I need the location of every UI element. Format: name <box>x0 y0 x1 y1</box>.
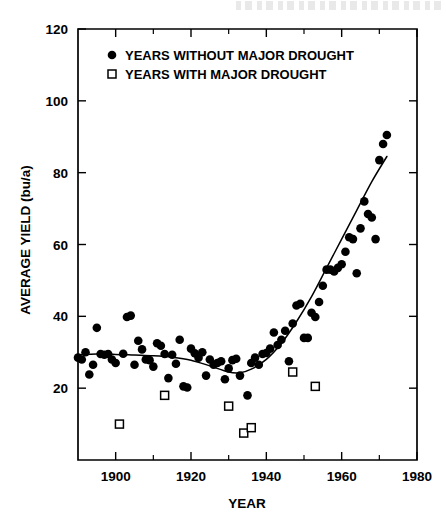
data-point-no-drought <box>288 319 297 328</box>
data-point-no-drought <box>221 375 230 384</box>
data-point-no-drought <box>130 361 139 370</box>
data-point-no-drought <box>175 335 184 344</box>
data-point-no-drought <box>81 348 90 357</box>
data-point-no-drought <box>168 350 177 359</box>
y-axis-ticks <box>78 29 417 388</box>
series-years-without-major-drought <box>74 131 391 400</box>
legend-label: YEARS WITH MAJOR DROUGHT <box>125 67 327 82</box>
y-tick-label: 20 <box>53 381 68 396</box>
data-point-no-drought <box>337 260 346 269</box>
data-point-no-drought <box>138 345 147 354</box>
legend-label: YEARS WITHOUT MAJOR DROUGHT <box>125 48 354 63</box>
data-point-no-drought <box>341 247 350 256</box>
data-point-no-drought <box>198 348 207 357</box>
data-point-no-drought <box>311 313 320 322</box>
data-point-drought <box>225 402 233 410</box>
y-tick-label: 40 <box>53 309 68 324</box>
data-point-no-drought <box>281 326 290 335</box>
scatter-chart: 19001920194019601980 20406080100120 YEAR… <box>0 0 446 529</box>
data-point-no-drought <box>379 140 388 149</box>
data-point-no-drought <box>303 334 312 343</box>
y-tick-label: 100 <box>45 94 68 109</box>
data-point-no-drought <box>217 357 226 366</box>
data-point-no-drought <box>371 235 380 244</box>
data-point-no-drought <box>149 362 158 371</box>
data-point-no-drought <box>236 371 245 380</box>
legend-marker-no-drought <box>108 51 117 60</box>
data-point-drought <box>311 382 319 390</box>
figure-container: 19001920194019601980 20406080100120 YEAR… <box>0 0 446 529</box>
data-point-no-drought <box>296 299 305 308</box>
x-tick-label: 1960 <box>327 469 357 484</box>
data-point-no-drought <box>164 374 173 383</box>
data-point-no-drought <box>172 359 181 368</box>
x-tick-label: 1980 <box>402 469 432 484</box>
chart-legend: YEARS WITHOUT MAJOR DROUGHTYEARS WITH MA… <box>108 48 354 82</box>
data-point-no-drought <box>183 383 192 392</box>
y-tick-label: 120 <box>45 22 68 37</box>
x-axis-title: YEAR <box>228 496 266 511</box>
data-point-drought <box>161 391 169 399</box>
x-axis-tick-labels: 19001920194019601980 <box>101 469 432 484</box>
data-point-no-drought <box>85 370 94 379</box>
x-tick-label: 1940 <box>251 469 281 484</box>
data-point-no-drought <box>270 328 279 337</box>
y-tick-label: 80 <box>53 166 68 181</box>
data-point-no-drought <box>93 324 102 333</box>
data-point-drought <box>289 368 297 376</box>
y-tick-label: 60 <box>53 238 68 253</box>
data-point-no-drought <box>315 298 324 307</box>
legend-marker-drought <box>108 70 116 78</box>
data-point-no-drought <box>319 282 328 291</box>
data-point-no-drought <box>277 335 286 344</box>
x-tick-label: 1900 <box>101 469 131 484</box>
y-axis-title: AVERAGE YIELD (bu/a) <box>18 165 33 315</box>
data-point-no-drought <box>352 269 361 278</box>
y-axis-tick-labels: 20406080100120 <box>45 22 68 396</box>
data-point-no-drought <box>349 235 358 244</box>
data-point-no-drought <box>89 361 98 370</box>
x-tick-label: 1920 <box>176 469 206 484</box>
series-years-with-major-drought <box>115 368 319 437</box>
data-point-no-drought <box>160 350 169 359</box>
data-point-no-drought <box>232 354 241 363</box>
data-point-no-drought <box>224 364 233 373</box>
data-point-no-drought <box>375 156 384 165</box>
data-point-no-drought <box>266 344 275 353</box>
data-point-no-drought <box>285 357 294 366</box>
data-point-no-drought <box>360 197 369 206</box>
data-point-no-drought <box>243 391 252 400</box>
data-point-no-drought <box>383 131 392 140</box>
data-point-no-drought <box>119 349 128 358</box>
data-point-no-drought <box>157 341 166 350</box>
data-point-no-drought <box>134 336 143 345</box>
data-point-no-drought <box>254 361 263 370</box>
data-point-no-drought <box>126 311 135 320</box>
data-point-no-drought <box>202 371 211 380</box>
data-point-drought <box>247 424 255 432</box>
data-point-no-drought <box>111 359 120 368</box>
data-point-drought <box>115 420 123 428</box>
data-point-no-drought <box>368 213 377 222</box>
data-point-no-drought <box>356 224 365 233</box>
